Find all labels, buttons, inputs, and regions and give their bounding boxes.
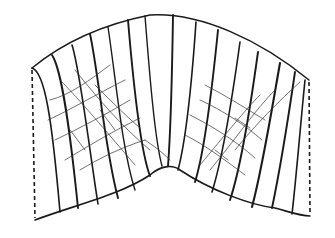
fracture-lines-left xyxy=(48,65,150,170)
fold-illustration xyxy=(0,0,335,238)
ribs xyxy=(32,15,305,214)
